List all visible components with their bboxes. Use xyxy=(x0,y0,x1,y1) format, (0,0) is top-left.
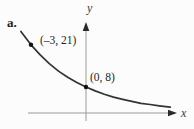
data-points xyxy=(29,43,88,90)
y-axis-label: y xyxy=(87,2,92,14)
y-axis-arrow-icon xyxy=(83,22,90,31)
exponential-graph-figure: a. y x (–3, 21) (0, 8) xyxy=(0,0,194,129)
x-axis-label: x xyxy=(181,107,186,119)
figure-label: a. xyxy=(7,16,17,29)
x-axis-arrow-icon xyxy=(168,110,177,117)
data-point-dot xyxy=(84,85,88,89)
point-label-neg3-21: (–3, 21) xyxy=(40,35,76,47)
point-label-0-8: (0, 8) xyxy=(90,72,115,84)
graph-canvas xyxy=(0,0,194,129)
data-point-dot xyxy=(29,43,33,47)
